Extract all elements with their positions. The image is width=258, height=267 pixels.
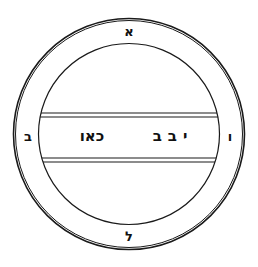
horizontal-band — [30, 113, 230, 162]
ring-letter-top: א — [124, 24, 133, 39]
ring-letter-left: ב — [24, 129, 32, 144]
ring-letter-bottom: ל — [125, 229, 133, 244]
band-text-left: כאו — [80, 127, 105, 145]
band-text-right: יבב — [153, 127, 194, 145]
ring-letter-right: ו — [228, 129, 232, 144]
seal-diagram: א ב ו ל כאו יבב — [0, 0, 258, 267]
outer-ring — [14, 19, 245, 250]
